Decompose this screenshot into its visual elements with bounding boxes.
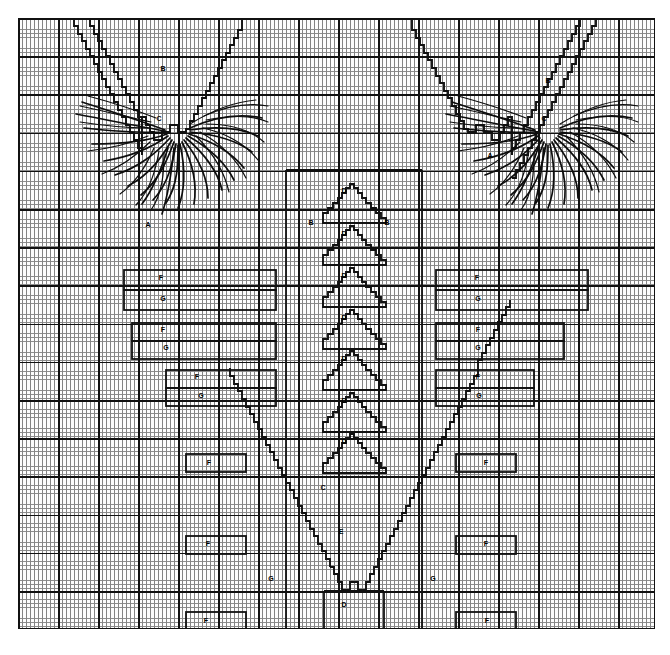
label-g-left-3: G (198, 392, 203, 399)
motif-overlay (18, 18, 655, 629)
label-f-left-2: F (161, 326, 165, 333)
right-placement-boxes (436, 270, 588, 629)
label-d-motif-4: D (341, 314, 346, 321)
label-f-right-1: F (475, 274, 479, 281)
left-outer-v-outline (74, 18, 142, 155)
label-c-right-neck: C (541, 115, 546, 122)
center-bottom-d-box (324, 591, 384, 629)
left-mid-chevron (230, 368, 330, 567)
label-f-right-4: F (484, 459, 488, 466)
label-b-right-neck: B (545, 77, 550, 84)
label-b-center-right: B (384, 219, 389, 226)
label-c-left-neck: C (156, 115, 161, 122)
label-f-right-2: F (476, 326, 480, 333)
label-c-lower-center: C (320, 484, 325, 491)
label-g-right-6: G (430, 575, 435, 582)
label-f-left-4: F (207, 459, 211, 466)
label-f-right-5: F (484, 540, 488, 547)
label-d-motif-7: D (341, 438, 346, 445)
label-g-right-1: G (475, 295, 480, 302)
left-fringe-plume (76, 96, 268, 214)
label-g-right-3: G (476, 392, 481, 399)
center-lower-v (330, 368, 478, 590)
label-g-left-6: G (268, 575, 273, 582)
label-a-left-body: A (145, 221, 150, 228)
right-inner-v-outline (412, 18, 512, 155)
label-f-left-1: F (159, 274, 163, 281)
label-f-left-3: F (195, 373, 199, 380)
label-a-right-body: A (487, 152, 492, 159)
chart-page: BCBCAABBDDDDDDDCEDFGFGFGFFGFFGFGFGFFGF (0, 0, 670, 655)
label-d-motif-1: D (341, 187, 346, 194)
label-d-motif-3: D (341, 272, 346, 279)
label-b-center-left: B (308, 219, 313, 226)
left-placement-boxes (124, 270, 276, 629)
label-d-motif-6: D (341, 397, 346, 404)
label-d-motif-5: D (341, 355, 346, 362)
label-b-left-neck: B (160, 65, 165, 72)
center-panel-box (286, 170, 422, 629)
label-g-right-2: G (475, 344, 480, 351)
label-f-right-3: F (476, 373, 480, 380)
center-triangle-motifs (323, 184, 386, 473)
label-d-lower-box: D (341, 601, 346, 608)
label-f-left-7: F (204, 617, 208, 624)
label-e-lower-center: E (339, 528, 344, 535)
label-g-left-2: G (163, 344, 168, 351)
label-g-left-1: G (160, 295, 165, 302)
label-f-left-5: F (206, 540, 210, 547)
label-f-right-7: F (485, 617, 489, 624)
label-d-motif-2: D (341, 230, 346, 237)
chart-surface: BCBCAABBDDDDDDDCEDFGFGFGFFGFFGFGFGFFGF (18, 18, 655, 629)
